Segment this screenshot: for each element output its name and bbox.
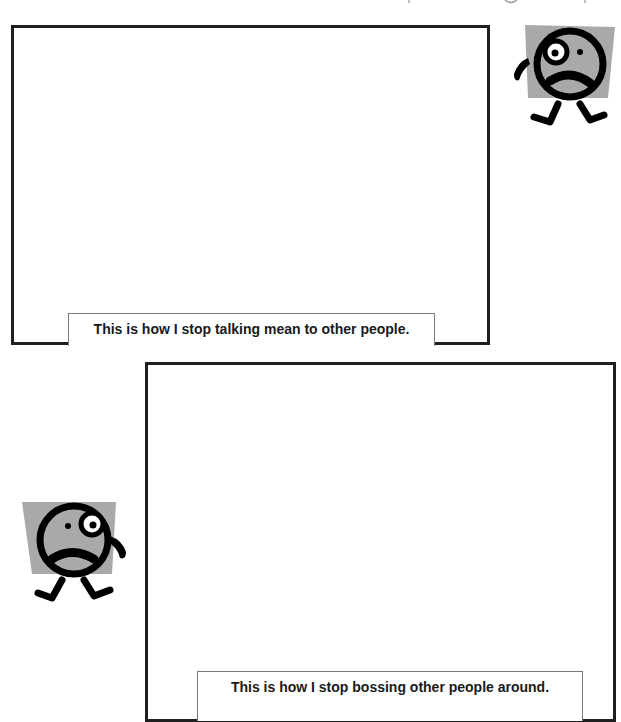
caption-box-1: This is how I stop talking mean to other… xyxy=(68,313,435,346)
cutoff-text-fragments xyxy=(0,0,621,6)
caption-text-1: This is how I stop talking mean to other… xyxy=(94,321,410,337)
drawing-frame-1[interactable]: This is how I stop talking mean to other… xyxy=(11,25,490,345)
caption-text-2: This is how I stop bossing other people … xyxy=(231,679,549,695)
sad-face-character-icon xyxy=(500,18,621,133)
sad-face-character-icon xyxy=(12,492,137,610)
drawing-frame-2[interactable]: This is how I stop bossing other people … xyxy=(145,362,616,722)
caption-box-2: This is how I stop bossing other people … xyxy=(197,671,583,721)
